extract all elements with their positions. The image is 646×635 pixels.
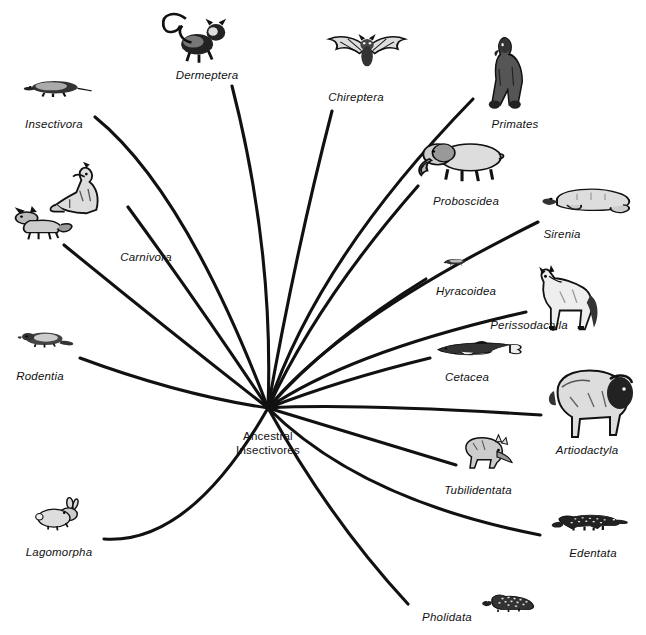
taxon-label-pholidata: Pholidata bbox=[422, 611, 472, 623]
taxon-label-sirenia: Sirenia bbox=[543, 228, 580, 240]
taxon-label-cetacea: Cetacea bbox=[445, 371, 489, 383]
taxon-label-primates: Primates bbox=[492, 118, 539, 130]
taxon-label-rodentia: Rodentia bbox=[16, 370, 64, 382]
branch-line-carnivora-fox bbox=[64, 245, 268, 408]
branch-line-chireptera bbox=[268, 111, 332, 408]
root-node-label: Ancestral Insectivores bbox=[236, 430, 300, 457]
diagram-canvas: DermepteraInsectivoraCarnivoraRodentiaLa… bbox=[0, 0, 646, 635]
branch-line-carnivora-wolf bbox=[128, 207, 268, 408]
branch-line-lagomorpha bbox=[104, 408, 268, 539]
taxon-label-carnivora-wolf: Carnivora bbox=[120, 251, 172, 263]
branch-lines-layer bbox=[0, 0, 646, 635]
taxon-label-perissodactyla: Perissodactyla bbox=[490, 319, 568, 331]
taxon-label-tubilidentata: Tubilidentata bbox=[444, 484, 512, 496]
branch-line-edentata bbox=[268, 408, 540, 535]
taxon-label-artiodactyla: Artiodactyla bbox=[556, 444, 618, 456]
taxon-label-insectivora: Insectivora bbox=[25, 118, 83, 130]
taxon-label-proboscidea: Proboscidea bbox=[433, 195, 499, 207]
branch-line-artiodactyla bbox=[268, 407, 541, 415]
taxon-label-chireptera: Chireptera bbox=[328, 91, 384, 103]
taxon-label-dermeptera: Dermeptera bbox=[176, 69, 239, 81]
taxon-label-lagomorpha: Lagomorpha bbox=[26, 546, 93, 558]
root-line-1: Ancestral bbox=[236, 430, 300, 444]
root-line-2: Insectivores bbox=[236, 443, 300, 457]
taxon-label-hyracoidea: Hyracoidea bbox=[436, 285, 496, 297]
taxon-label-edentata: Edentata bbox=[569, 547, 617, 559]
